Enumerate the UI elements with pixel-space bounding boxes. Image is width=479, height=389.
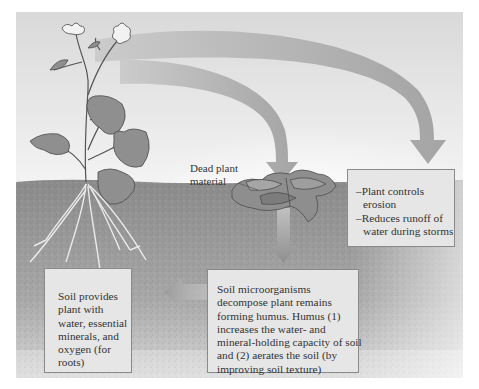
erosion-line-3: –Reduces runoff of xyxy=(356,212,448,225)
humus-line-1: Soil microorganisms xyxy=(217,283,354,296)
dead-plant-label: Dead plant material xyxy=(190,162,238,187)
soil-provides-line-3: water, essential xyxy=(58,317,127,330)
erosion-control-box: –Plant controls erosion –Reduces runoff … xyxy=(347,169,455,247)
humus-line-5: mineral-holding capacity of soil xyxy=(217,336,354,349)
humus-line-7: improving soil texture) xyxy=(217,363,354,376)
humus-line-3: forming humus. Humus (1) xyxy=(217,310,354,323)
soil-provides-line-4: minerals, and xyxy=(58,330,127,343)
soil-provides-box: Soil provides plant with water, essentia… xyxy=(44,268,132,373)
dead-plant-label-line-1: Dead plant xyxy=(190,162,238,175)
soil-provides-line-6: roots) xyxy=(58,356,127,369)
humus-line-4: increases the water- and xyxy=(217,323,354,336)
humus-line-2: decompose plant remains xyxy=(217,296,354,309)
erosion-line-1: –Plant controls xyxy=(356,185,448,198)
erosion-line-4: water during storms xyxy=(356,225,448,238)
dead-plant-label-line-2: material xyxy=(190,175,238,188)
soil-provides-line-5: oxygen (for xyxy=(58,343,127,356)
humus-formation-box: Soil microorganisms decompose plant rema… xyxy=(207,269,359,373)
humus-line-6: and (2) aerates the soil (by xyxy=(217,349,354,362)
erosion-line-2: erosion xyxy=(356,198,448,211)
soil-provides-line-2: plant with xyxy=(58,303,127,316)
soil-provides-line-1: Soil provides xyxy=(58,290,127,303)
plant-soil-diagram: Dead plant material –Plant controls eros… xyxy=(0,0,479,389)
